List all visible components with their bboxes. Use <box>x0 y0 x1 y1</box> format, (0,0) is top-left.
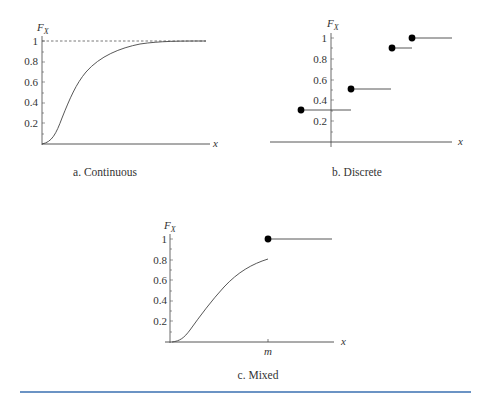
y-ticks <box>42 41 45 134</box>
tick-label: 1 <box>33 35 39 47</box>
tick-label: 0.4 <box>313 94 327 106</box>
tick-label: 0.2 <box>24 117 38 129</box>
y-axis-label: FX <box>36 21 50 36</box>
tick-label: 0.6 <box>24 76 38 88</box>
x-axis-label: x <box>457 135 463 147</box>
caption: a. Continuous <box>73 166 137 178</box>
tick-label: 1 <box>162 233 168 245</box>
cdf-curve <box>172 259 268 342</box>
y-axis-label: FX <box>163 219 177 234</box>
jump-point <box>265 236 272 243</box>
tick-label: 0.4 <box>153 294 167 306</box>
x-axis-label: x <box>212 137 218 149</box>
tick-label: 1 <box>322 32 328 44</box>
tick-label: m <box>264 345 272 357</box>
tick-label: 0.2 <box>153 315 167 327</box>
tick-label: 0.8 <box>313 53 327 65</box>
tick-label: 0.4 <box>24 96 38 108</box>
caption: c. Mixed <box>238 369 279 381</box>
figure-canvas: FX x 0.2 0.4 0.6 0.8 1 a. Continuous FX … <box>0 0 485 403</box>
x-axis-label: x <box>340 335 346 347</box>
y-ticks <box>331 38 334 132</box>
tick-label: 0.6 <box>153 274 167 286</box>
chart-discrete: FX x 0.2 0.4 0.6 0.8 1 b. Discrete <box>270 17 463 178</box>
y-ticks <box>170 239 173 332</box>
caption: b. Discrete <box>332 166 382 178</box>
tick-label: 0.8 <box>24 55 38 67</box>
tick-label: 0.6 <box>313 74 327 86</box>
y-axis-label: FX <box>326 17 340 32</box>
chart-mixed: FX x m 0.2 0.4 0.6 0.8 1 c. Mixed <box>153 219 346 381</box>
cdf-curve <box>42 41 206 144</box>
tick-label: 0.2 <box>313 115 327 127</box>
tick-label: 0.8 <box>153 254 167 266</box>
chart-continuous: FX x 0.2 0.4 0.6 0.8 1 a. Continuous <box>24 21 218 178</box>
